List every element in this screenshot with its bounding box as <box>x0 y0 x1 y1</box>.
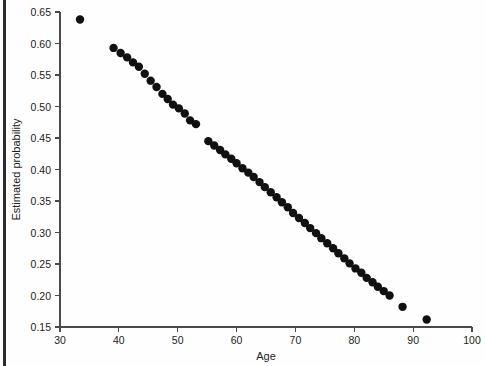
y-tick-label: 0.40 <box>31 164 52 176</box>
x-tick-label: 30 <box>54 334 66 346</box>
y-tick-label: 0.50 <box>31 101 52 113</box>
data-point <box>135 63 143 71</box>
x-tick-label: 60 <box>231 334 243 346</box>
x-tick-label: 70 <box>290 334 302 346</box>
data-point <box>141 70 149 78</box>
axis-spine <box>60 12 472 327</box>
data-point <box>422 315 430 323</box>
y-tick-label: 0.30 <box>31 227 52 239</box>
x-axis: 30405060708090100 <box>54 327 481 346</box>
x-tick-label: 50 <box>172 334 184 346</box>
y-tick-label: 0.20 <box>31 290 52 302</box>
y-tick-label: 0.65 <box>31 6 52 18</box>
data-point <box>146 76 154 84</box>
figure-page: 0.150.200.250.300.350.400.450.500.550.60… <box>0 0 485 366</box>
y-tick-label: 0.35 <box>31 195 52 207</box>
y-tick-label: 0.45 <box>31 132 52 144</box>
y-tick-label: 0.60 <box>31 38 52 50</box>
x-tick-label: 40 <box>113 334 125 346</box>
data-point <box>76 15 84 23</box>
y-tick-label: 0.55 <box>31 69 52 81</box>
x-tick-label: 80 <box>348 334 360 346</box>
data-point <box>192 120 200 128</box>
y-axis: 0.150.200.250.300.350.400.450.500.550.60… <box>31 6 60 333</box>
data-series <box>76 15 431 323</box>
scatter-chart: 0.150.200.250.300.350.400.450.500.550.60… <box>0 0 485 366</box>
y-axis-title: Estimated probability <box>10 118 22 221</box>
x-tick-label: 100 <box>463 334 481 346</box>
y-tick-label: 0.15 <box>31 321 52 333</box>
data-point <box>181 109 189 117</box>
x-axis-title: Age <box>256 350 276 362</box>
data-point <box>385 291 393 299</box>
plot-canvas: 0.150.200.250.300.350.400.450.500.550.60… <box>0 0 485 366</box>
y-tick-label: 0.25 <box>31 258 52 270</box>
data-point <box>152 83 160 91</box>
data-point <box>398 303 406 311</box>
x-tick-label: 90 <box>407 334 419 346</box>
data-point <box>109 44 117 52</box>
